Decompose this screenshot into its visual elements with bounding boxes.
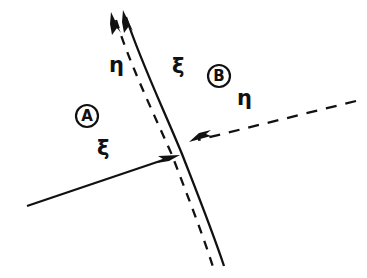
region-badge-b: B <box>206 63 232 89</box>
eta-curve-dashed <box>116 20 214 270</box>
eta-line-dashed-right <box>198 101 356 140</box>
xi-line-solid-lower-left <box>27 157 172 206</box>
region-label-a: A <box>74 103 100 129</box>
label-eta-upper-left: η <box>109 55 124 76</box>
label-xi-lower-left: ξ <box>97 138 109 159</box>
diagram-svg <box>0 0 367 278</box>
figure-canvas: η ξ η ξ A B <box>0 0 367 278</box>
arrow-xi-interface-icon <box>157 155 180 163</box>
label-eta-right: η <box>237 88 252 109</box>
region-badge-a: A <box>74 103 100 129</box>
label-xi-upper-middle: ξ <box>172 56 184 77</box>
region-label-b: B <box>206 63 232 89</box>
arrow-eta-top-icon <box>110 12 121 35</box>
